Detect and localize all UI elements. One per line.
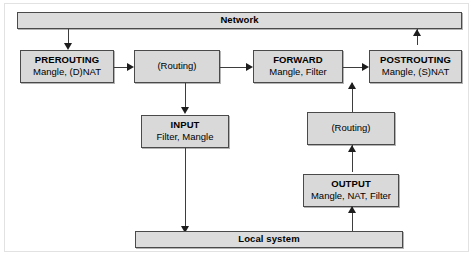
node-postrouting-tables: Mangle, (S)NAT xyxy=(382,67,449,78)
edge-routing-to-forward-arrowhead xyxy=(246,63,253,71)
edge-network-to-prerouting-line xyxy=(68,29,69,44)
edge-routing-low-to-forward-arrowhead xyxy=(348,82,356,89)
node-output-label: OUTPUT xyxy=(331,179,371,190)
node-routing-low-label: (Routing) xyxy=(331,123,370,134)
node-network[interactable]: Network xyxy=(17,12,462,29)
edge-prerouting-to-routing-arrowhead xyxy=(127,63,134,71)
node-postrouting-label: POSTROUTING xyxy=(380,55,451,66)
node-output-tables: Mangle, NAT, Filter xyxy=(311,191,391,202)
edge-input-to-local-system-line xyxy=(185,148,186,228)
edge-prerouting-to-routing-line xyxy=(114,67,128,68)
node-routing-top-label: (Routing) xyxy=(157,61,196,72)
node-forward[interactable]: FORWARD Mangle, Filter xyxy=(253,50,343,83)
node-routing-low[interactable]: (Routing) xyxy=(307,112,395,145)
node-forward-label: FORWARD xyxy=(273,55,323,66)
edge-output-to-routing-low-arrowhead xyxy=(348,145,356,152)
edge-local-system-to-output-arrowhead xyxy=(348,206,356,213)
edge-network-to-prerouting-arrowhead xyxy=(64,43,72,50)
node-routing-top[interactable]: (Routing) xyxy=(134,50,220,83)
edge-forward-to-postrouting-arrowhead xyxy=(362,63,369,71)
node-network-label: Network xyxy=(220,15,258,26)
node-prerouting[interactable]: PREROUTING Mangle, (D)NAT xyxy=(20,50,114,83)
node-forward-tables: Mangle, Filter xyxy=(269,67,327,78)
node-prerouting-label: PREROUTING xyxy=(35,55,99,66)
node-prerouting-tables: Mangle, (D)NAT xyxy=(33,67,101,78)
node-input-tables: Filter, Mangle xyxy=(156,132,213,143)
node-local-system-label: Local system xyxy=(238,234,299,245)
node-input-label: INPUT xyxy=(171,120,200,131)
node-local-system[interactable]: Local system xyxy=(135,231,403,248)
image-frame xyxy=(4,3,469,252)
edge-forward-to-postrouting-line xyxy=(343,67,363,68)
node-output[interactable]: OUTPUT Mangle, NAT, Filter xyxy=(303,174,399,207)
edge-routing-to-forward-line xyxy=(220,67,247,68)
edge-postrouting-to-network-arrowhead xyxy=(413,29,421,36)
diagram-canvas: Network PREROUTING Mangle, (D)NAT (Routi… xyxy=(0,0,475,258)
node-postrouting[interactable]: POSTROUTING Mangle, (S)NAT xyxy=(369,50,462,83)
edge-routing-to-input-arrowhead xyxy=(181,107,189,114)
edge-routing-to-input-line xyxy=(185,83,186,109)
node-input[interactable]: INPUT Filter, Mangle xyxy=(141,115,229,148)
